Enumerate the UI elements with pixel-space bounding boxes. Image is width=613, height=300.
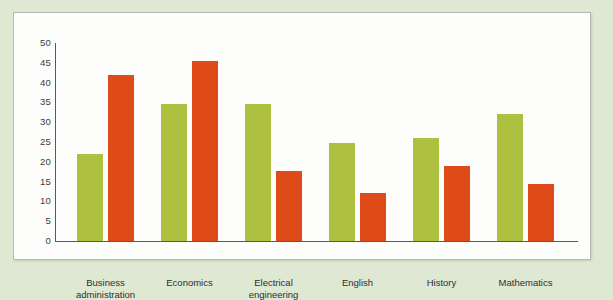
x-axis-category-label: Mathematics <box>477 277 574 289</box>
bar-group <box>245 43 302 241</box>
bar-series-b[interactable] <box>192 61 218 241</box>
bar-group <box>329 43 386 241</box>
bar-series-b[interactable] <box>444 166 470 241</box>
y-axis-tick-label: 25 <box>21 137 51 147</box>
x-axis-category-label: Electrical engineering <box>225 277 322 300</box>
y-axis-tick-label: 10 <box>21 197 51 207</box>
y-axis-tick-label: 35 <box>21 98 51 108</box>
y-axis-tick-label: 45 <box>21 58 51 68</box>
x-axis-line <box>55 241 578 242</box>
y-axis-tick-label: 5 <box>21 216 51 226</box>
x-axis-category-label: Economics <box>141 277 238 289</box>
bar-series-b[interactable] <box>360 193 386 241</box>
bar-series-a[interactable] <box>245 104 271 241</box>
y-axis-tick-label: 30 <box>21 117 51 127</box>
bar-series-a[interactable] <box>497 114 523 241</box>
bar-group <box>161 43 218 241</box>
y-axis-tick-label: 40 <box>21 78 51 88</box>
bar-series-b[interactable] <box>276 171 302 241</box>
bar-group <box>413 43 470 241</box>
bar-group <box>77 43 134 241</box>
y-axis-tick-label: 50 <box>21 38 51 48</box>
y-axis-tick-label: 20 <box>21 157 51 167</box>
bar-group <box>497 43 554 241</box>
y-axis-tick-labels: 05101520253035404550 <box>19 43 51 241</box>
x-axis-category-label: English <box>309 277 406 289</box>
bar-series-a[interactable] <box>161 104 187 241</box>
y-axis-tick-label: 0 <box>21 236 51 246</box>
bar-series-b[interactable] <box>528 184 554 241</box>
y-axis-tick-label: 15 <box>21 177 51 187</box>
bar-series-a[interactable] <box>413 138 439 241</box>
bar-series-a[interactable] <box>77 154 103 241</box>
bar-series-a[interactable] <box>329 143 355 241</box>
bars-layer: Business administrationEconomicsElectric… <box>56 43 578 241</box>
x-axis-category-label: Business administration <box>57 277 154 300</box>
x-axis-category-label: History <box>393 277 490 289</box>
bar-series-b[interactable] <box>108 75 134 241</box>
chart-panel: 05101520253035404550 Business administra… <box>13 12 591 260</box>
